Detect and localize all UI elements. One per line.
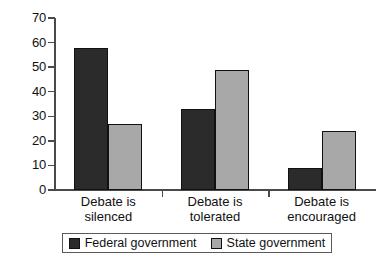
bar-state (215, 70, 249, 190)
y-axis-tick-mark (48, 165, 55, 167)
bar-group (268, 18, 375, 190)
y-axis-tick-mark (48, 42, 55, 44)
y-axis-tick-mark (48, 140, 55, 142)
y-axis-tick-mark (48, 116, 55, 118)
legend-entry-federal: Federal government (69, 237, 197, 250)
y-axis-tick-label-wrap: 0 (0, 183, 46, 196)
y-axis-tick-label: 50 (2, 60, 46, 73)
y-axis-tick-mark (48, 91, 55, 93)
category-label-line: tolerated (162, 209, 269, 224)
category-label-line: encouraged (268, 209, 375, 224)
legend-entry-state: State government (211, 237, 326, 250)
y-axis-tick-label-wrap: 40 (0, 85, 46, 98)
category-label-line: Debate is (268, 194, 375, 209)
legend-label-state: State government (227, 237, 326, 250)
y-axis-tick-mark (48, 17, 55, 19)
y-axis-tick-mark (48, 66, 55, 68)
legend-swatch-icon-federal (69, 238, 80, 249)
y-axis-tick-label: 20 (2, 134, 46, 147)
y-axis-tick-label-wrap: 50 (0, 60, 46, 73)
bar-chart: 010203040506070 Debate issilencedDebate … (0, 0, 392, 266)
chart-legend: Federal government State government (62, 233, 332, 253)
y-axis-tick-label: 40 (2, 85, 46, 98)
legend-swatch-icon-state (211, 238, 222, 249)
bar-state (108, 124, 142, 190)
category-label-line: silenced (55, 209, 162, 224)
bar-federal (74, 48, 108, 191)
bar-state (322, 131, 356, 190)
y-axis-tick-label-wrap: 20 (0, 134, 46, 147)
y-axis-tick-label-wrap: 30 (0, 109, 46, 122)
y-axis-tick-label-wrap: 10 (0, 158, 46, 171)
plot-area (55, 18, 375, 190)
category-label-line: Debate is (55, 194, 162, 209)
category-label-line: Debate is (162, 194, 269, 209)
y-axis-tick-label: 70 (2, 11, 46, 24)
y-axis-tick-label-wrap: 60 (0, 36, 46, 49)
y-axis-tick-label: 10 (2, 158, 46, 171)
bar-federal (181, 109, 215, 190)
legend-label-federal: Federal government (85, 237, 197, 250)
bar-group (55, 18, 162, 190)
x-axis-category-label: Debate issilenced (55, 194, 162, 224)
bar-federal (288, 168, 322, 190)
y-axis-tick-label-wrap: 70 (0, 11, 46, 24)
y-axis-tick-label: 60 (2, 36, 46, 49)
y-axis-tick-label: 30 (2, 109, 46, 122)
bar-group (162, 18, 269, 190)
y-axis-tick-label: 0 (2, 183, 46, 196)
x-axis-category-label: Debate isencouraged (268, 194, 375, 224)
x-axis-category-label: Debate istolerated (162, 194, 269, 224)
